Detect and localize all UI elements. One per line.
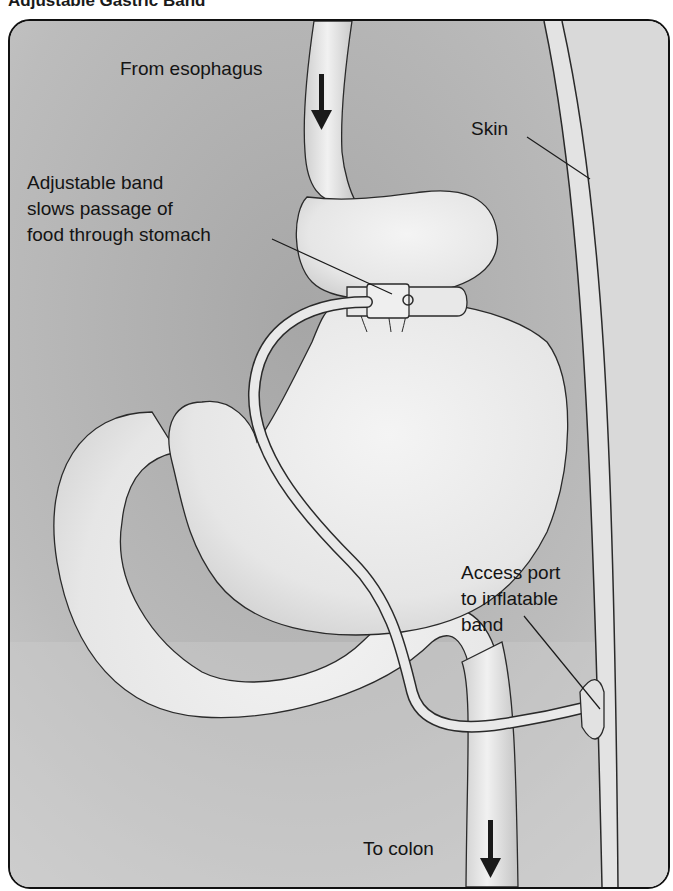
esophagus-label: From esophagus xyxy=(120,57,263,80)
figure-title: Adjustable Gastric Band xyxy=(8,0,205,11)
skin-label: Skin xyxy=(471,117,508,140)
band-label-line-1: Adjustable band xyxy=(27,171,163,194)
gastric-band-diagram: From esophagus Skin Adjustable band slow… xyxy=(8,19,670,889)
port-label-line-3: band xyxy=(461,613,503,636)
port-label-line-1: Access port xyxy=(461,561,560,584)
colon-label: To colon xyxy=(363,837,434,860)
band-label-line-3: food through stomach xyxy=(27,223,211,246)
port-label-line-2: to inflatable xyxy=(461,587,558,610)
band-label-line-2: slows passage of xyxy=(27,197,173,220)
